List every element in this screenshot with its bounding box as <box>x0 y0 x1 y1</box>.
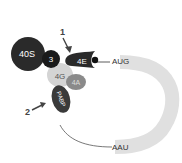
eif4e-label: 4E <box>77 57 87 66</box>
cap-dot <box>92 57 98 63</box>
start-codon-label: AUG <box>112 57 129 66</box>
eif4a-label: 4A <box>72 79 81 86</box>
arrow-2 <box>32 105 42 110</box>
arrow-1-label: 1 <box>60 27 65 37</box>
ribosome-40s-label: 40S <box>19 49 35 59</box>
mrna-loop <box>115 62 172 147</box>
arrow-2-label: 2 <box>25 107 30 117</box>
arrow-1-head <box>65 46 72 53</box>
stop-codon-label: AAU <box>112 143 129 152</box>
eif4g-label: 4G <box>55 72 66 81</box>
eif3-label: 3 <box>49 55 54 64</box>
translation-initiation-diagram: 4G 4A 40S 3 4E AUG PABP AAU 1 2 <box>0 0 182 163</box>
mrna-3prime-line <box>60 125 112 147</box>
